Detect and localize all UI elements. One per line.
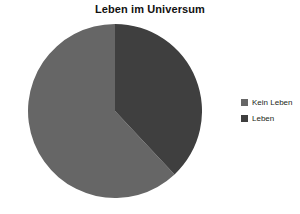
pie-slices	[28, 24, 202, 198]
pie-svg	[28, 22, 202, 200]
pie-plot-area	[28, 22, 202, 200]
legend-swatch-icon	[241, 99, 248, 106]
legend-swatch-icon	[241, 115, 248, 122]
pie-chart-figure: Leben im Universum Kein Leben Leben	[0, 0, 300, 214]
chart-legend: Kein Leben Leben	[241, 96, 300, 128]
legend-item-label: Kein Leben	[252, 98, 292, 107]
legend-item-kein-leben[interactable]: Kein Leben	[241, 96, 300, 109]
legend-item-leben[interactable]: Leben	[241, 112, 300, 125]
legend-item-label: Leben	[252, 114, 274, 123]
chart-title: Leben im Universum	[0, 2, 300, 16]
